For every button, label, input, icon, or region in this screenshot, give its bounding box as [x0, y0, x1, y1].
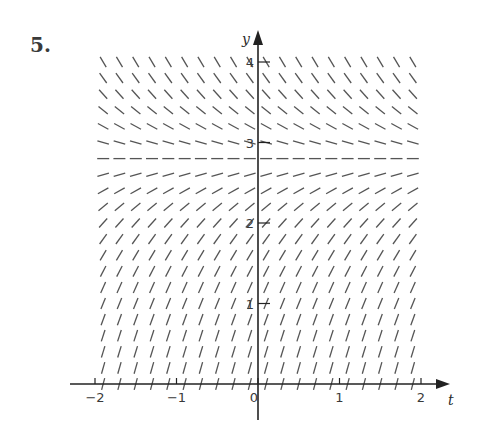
slope-segment: [342, 188, 353, 194]
slope-segment: [312, 57, 318, 67]
slope-segment: [114, 173, 126, 176]
slope-segment: [165, 234, 172, 244]
slope-segment: [165, 73, 172, 83]
slope-segment: [182, 298, 187, 309]
slope-segment: [394, 57, 400, 67]
slope-segment: [278, 107, 287, 115]
slope-segment: [181, 90, 189, 99]
y-tick-label: 3: [246, 136, 254, 151]
slope-segment: [294, 188, 305, 194]
slope-segment: [360, 73, 367, 83]
slope-segment: [231, 57, 237, 67]
slope-segment: [182, 266, 188, 277]
slope-segment: [310, 188, 321, 194]
slope-segment: [248, 330, 252, 341]
slope-segment: [328, 234, 335, 244]
slope-segment: [393, 234, 400, 244]
slope-segment: [147, 203, 156, 211]
slope-segment: [232, 330, 236, 341]
slope-segment: [409, 90, 417, 99]
slope-segment: [199, 330, 203, 341]
slope-segment: [280, 298, 285, 309]
slope-segment: [294, 203, 303, 211]
slope-segment: [394, 282, 399, 293]
slope-segment: [134, 298, 139, 309]
y-tick-label: 1: [246, 297, 254, 312]
slope-segment: [118, 330, 122, 341]
slope-segment: [377, 57, 383, 67]
axis-ticks: −2−10121234: [85, 55, 425, 405]
slope-segment: [312, 266, 318, 277]
slope-segment: [377, 234, 384, 244]
slope-segment: [247, 250, 253, 260]
slope-segment: [149, 57, 155, 67]
slope-segment: [278, 203, 287, 211]
slope-segment: [279, 234, 286, 244]
y-axis-arrow-icon: [253, 30, 263, 45]
slope-segment: [215, 330, 219, 341]
slope-segment: [277, 124, 288, 130]
slope-segment: [196, 107, 205, 115]
slope-segment: [199, 314, 203, 325]
slope-segment: [149, 234, 156, 244]
slope-segment: [214, 250, 220, 260]
slope-segment: [133, 266, 139, 277]
slope-segment: [213, 203, 222, 211]
slope-segment: [312, 250, 318, 260]
slope-segment: [345, 266, 351, 277]
slope-segment: [359, 188, 370, 194]
slope-segment: [330, 346, 334, 357]
slope-segment: [395, 314, 399, 325]
slope-segment: [327, 203, 336, 211]
slope-segment: [182, 250, 188, 260]
slope-segment: [101, 282, 106, 293]
slope-segment: [181, 234, 188, 244]
slope-segment: [165, 57, 171, 67]
slope-segment: [376, 203, 385, 211]
slope-segment: [197, 234, 204, 244]
slope-segment: [167, 362, 170, 374]
slope-segment: [346, 330, 350, 341]
slope-segment: [346, 314, 350, 325]
slope-segment: [329, 282, 334, 293]
slope-segment: [246, 90, 254, 99]
slope-segment: [327, 219, 335, 228]
slope-segment: [294, 107, 303, 115]
slope-segment: [280, 314, 284, 325]
slope-segment: [181, 73, 188, 83]
slope-segment: [163, 124, 174, 130]
t-tick-label: −2: [85, 390, 104, 405]
slope-segment: [296, 57, 302, 67]
slope-segment: [260, 173, 272, 176]
slope-segment: [297, 330, 301, 341]
slope-segment: [179, 188, 190, 194]
slope-segment: [147, 124, 158, 130]
slope-segment: [313, 314, 317, 325]
slope-segment: [101, 330, 105, 341]
slope-segment: [163, 173, 175, 176]
slope-segment: [378, 266, 384, 277]
slope-segment: [183, 362, 186, 374]
slope-segment: [115, 107, 124, 115]
slope-segment: [310, 203, 319, 211]
slope-segment: [133, 282, 138, 293]
slope-segment: [296, 282, 301, 293]
slope-segment: [212, 141, 224, 144]
slope-segment: [377, 250, 383, 260]
slope-segment: [134, 362, 137, 374]
slope-segment: [131, 188, 142, 194]
slope-segment: [231, 266, 237, 277]
slope-segment: [117, 314, 121, 325]
slope-segment: [264, 282, 269, 293]
slope-segment: [196, 203, 205, 211]
slope-segment: [229, 203, 238, 211]
slope-segment: [358, 141, 370, 144]
slope-segment: [378, 298, 383, 309]
slope-segment: [359, 124, 370, 130]
slope-segment: [395, 362, 398, 374]
slope-segment: [97, 141, 109, 144]
slope-segment: [150, 314, 154, 325]
slope-segment: [312, 234, 319, 244]
slope-segment: [342, 124, 353, 130]
slope-segment: [293, 173, 305, 176]
